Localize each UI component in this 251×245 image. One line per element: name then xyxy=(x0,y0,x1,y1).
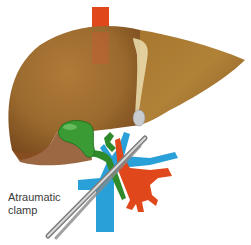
clamp-label-line2: clamp xyxy=(8,204,61,217)
clamp-label-line1: Atraumatic xyxy=(8,191,61,204)
gallbladder-highlight xyxy=(63,124,77,130)
liver-left-lobe xyxy=(140,30,245,125)
clamp-label: Atraumatic clamp xyxy=(8,191,61,217)
liver-illustration: Atraumatic clamp xyxy=(0,0,251,245)
round-ligament xyxy=(133,110,145,126)
ivc-intrahepatic xyxy=(92,32,109,64)
